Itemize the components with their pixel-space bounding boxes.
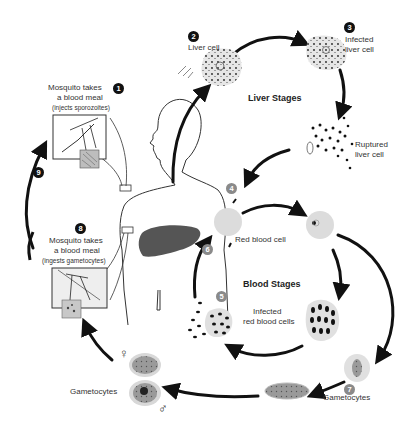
ruptured-liver-cell <box>307 117 353 170</box>
step8-label-line2: a blood meal <box>54 246 100 256</box>
blood-stages-title: Blood Stages <box>243 279 301 289</box>
infected-rbc-label-1: Infected <box>253 307 281 317</box>
step1-note: (injects sporozoites) <box>52 104 110 112</box>
step-badge-4: 4 <box>226 183 237 194</box>
female-gametocyte <box>129 353 161 377</box>
sporozoites <box>178 66 193 78</box>
red-blood-cell <box>214 208 242 236</box>
step-badge-2: 2 <box>188 31 199 42</box>
male-symbol: ♂ <box>158 402 168 415</box>
red-blood-cell-label: Red blood cell <box>235 235 286 245</box>
mosquito-box-injects <box>53 115 106 168</box>
step1-label-line1: Mosquito takes <box>48 83 102 93</box>
step-badge-5: 5 <box>216 291 227 302</box>
step8-label-line1: Mosquito takes <box>49 236 103 246</box>
schizont-cell <box>306 300 339 341</box>
infected-liver-cell-label-2: liver cell <box>345 45 374 55</box>
infected-red-blood-cell <box>306 211 334 239</box>
rupturing-schizont <box>188 302 232 339</box>
mature-gametocyte <box>265 383 309 399</box>
ruptured-liver-cell-label-2: liver cell <box>355 150 384 160</box>
step1-label-line2: a blood meal <box>57 93 103 103</box>
step-badge-6: 6 <box>202 244 213 255</box>
step-badge-1: 1 <box>113 83 124 94</box>
mosquito-box-ingests <box>52 268 107 318</box>
malaria-lifecycle-diagram <box>0 0 416 428</box>
ring-stage-parasite <box>312 221 316 225</box>
gametocytes-label-right: Gametocytes <box>323 393 370 403</box>
gametocyte-cell <box>344 354 370 382</box>
female-symbol: ♀ <box>119 347 129 360</box>
liver-stages-title: Liver Stages <box>248 93 302 103</box>
step-badge-9: 9 <box>33 167 44 178</box>
step-badge-3: 3 <box>344 22 355 33</box>
infected-liver-cell <box>306 35 346 70</box>
infected-rbc-label-2: red blood cells <box>243 317 295 327</box>
liver-organ <box>139 225 201 256</box>
infected-liver-cell-label-1: Infected <box>345 35 373 45</box>
bite-site-arm <box>122 227 133 233</box>
step-badge-8: 8 <box>75 223 86 234</box>
human-figure <box>120 99 228 325</box>
liver-cell-label: Liver cell <box>188 43 220 53</box>
male-gametocyte <box>129 380 161 406</box>
gametocytes-label-left: Gametocytes <box>70 387 117 397</box>
ruptured-liver-cell-label-1: Ruptured <box>355 140 388 150</box>
liver-cell <box>201 49 241 86</box>
step8-note: (ingests gametocytes) <box>42 257 106 265</box>
